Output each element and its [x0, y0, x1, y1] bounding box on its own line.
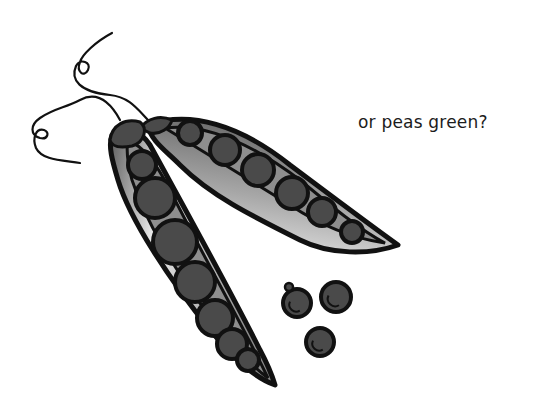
loose-peas: [283, 282, 351, 356]
pea: [237, 349, 259, 371]
pea: [308, 198, 336, 226]
pea: [175, 262, 215, 302]
pea-stem: [285, 283, 293, 291]
pea: [283, 289, 311, 317]
pea: [306, 328, 334, 356]
pea: [321, 282, 351, 312]
pea: [210, 135, 240, 165]
pea-pods-illustration: [0, 0, 535, 410]
pea: [128, 151, 156, 179]
pea: [276, 177, 308, 209]
pea: [178, 121, 202, 145]
pea: [341, 221, 363, 243]
caption-text: or peas green?: [358, 112, 488, 132]
pea: [242, 154, 274, 186]
pea: [153, 220, 197, 264]
pea: [135, 178, 175, 218]
